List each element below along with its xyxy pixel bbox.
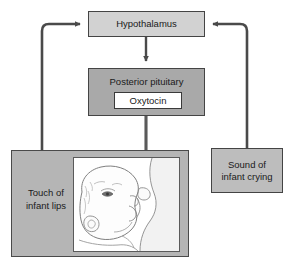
node-sound-of-infant-crying: Sound of infant crying xyxy=(211,148,283,193)
node-touch-label-line1: Touch of xyxy=(28,187,64,198)
infant-nursing-illustration xyxy=(73,157,180,252)
node-touch-of-infant-lips: Touch of infant lips xyxy=(11,150,189,257)
edge-crying-to-hypothalamus xyxy=(213,24,247,148)
node-posterior-pituitary: Posterior pituitary Oxytocin xyxy=(88,68,205,116)
node-crying-label-line2: infant crying xyxy=(221,171,272,182)
node-posterior-pituitary-label: Posterior pituitary xyxy=(89,76,204,88)
node-hypothalamus: Hypothalamus xyxy=(88,11,205,37)
node-touch-label-line2: infant lips xyxy=(26,200,66,211)
node-hypothalamus-label: Hypothalamus xyxy=(116,18,177,30)
node-crying-label-line1: Sound of xyxy=(228,159,266,170)
oxytocin-reflex-diagram: Hypothalamus Posterior pituitary Oxytoci… xyxy=(0,0,288,265)
node-oxytocin: Oxytocin xyxy=(114,92,182,109)
edge-touch-to-hypothalamus xyxy=(42,24,80,150)
node-touch-label: Touch of infant lips xyxy=(16,187,76,213)
node-oxytocin-label: Oxytocin xyxy=(130,95,167,107)
